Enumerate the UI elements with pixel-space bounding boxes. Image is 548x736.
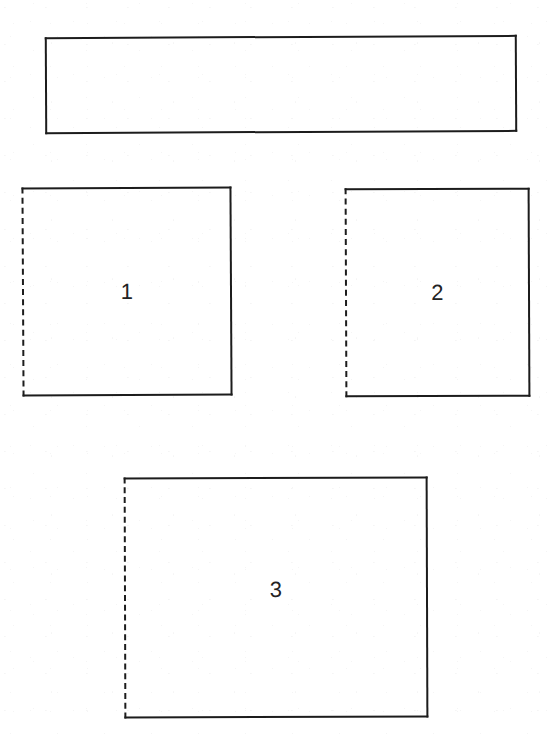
edge-bottom: [345, 395, 530, 398]
figure-canvas: 1 2 3: [0, 0, 548, 736]
shape-box-3: 3: [124, 477, 429, 719]
shape-box-2: 2: [345, 188, 531, 398]
edge-top: [45, 35, 517, 39]
edge-top: [345, 188, 530, 191]
edge-bottom: [23, 393, 233, 396]
edge-top: [21, 186, 231, 189]
edge-bottom: [124, 716, 428, 719]
shape-header-bar: [45, 35, 517, 134]
shape-box-1: 1: [21, 186, 232, 396]
edge-right: [515, 35, 517, 132]
shape-label-1: 1: [22, 280, 232, 303]
edge-bottom: [45, 130, 517, 134]
edge-left: [45, 37, 47, 134]
edge-top: [124, 477, 428, 480]
shape-label-2: 2: [345, 281, 530, 304]
shape-label-3: 3: [124, 579, 428, 602]
